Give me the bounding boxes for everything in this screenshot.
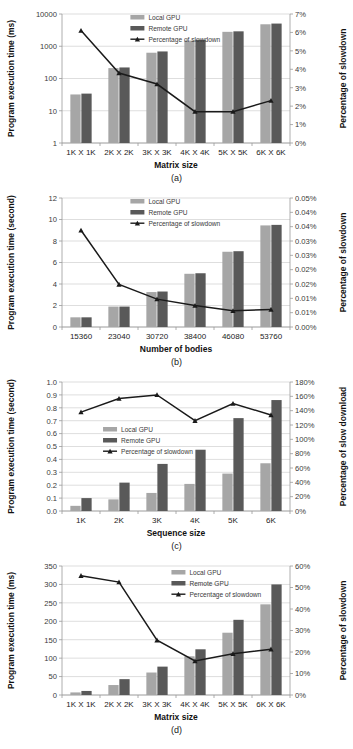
svg-text:0.5: 0.5 [46,442,57,451]
svg-text:0.00%: 0.00% [295,323,317,332]
bar-remote-gpu [271,225,281,327]
svg-text:200: 200 [44,617,57,626]
svg-text:0.03%: 0.03% [295,237,317,246]
legend-remote-gpu-label: Remote GPU [148,209,187,216]
svg-text:50%: 50% [295,583,310,592]
svg-text:3K: 3K [152,516,162,525]
chart-figure-d: 0501001502002503003500%10%20%30%40%50%60… [0,552,353,736]
svg-text:Matrix size: Matrix size [154,712,198,722]
svg-text:Percentage of slowdown: Percentage of slowdown [338,581,348,681]
svg-text:0.04%: 0.04% [295,222,317,231]
svg-text:12: 12 [49,194,57,203]
svg-text:40%: 40% [295,478,310,487]
svg-text:4K X 4K: 4K X 4K [180,700,210,709]
svg-text:100: 100 [44,74,57,83]
bar-local-gpu [146,493,156,511]
svg-text:6: 6 [53,258,57,267]
svg-text:53760: 53760 [260,332,283,341]
svg-text:60%: 60% [295,562,310,571]
svg-text:300: 300 [44,580,57,589]
legend-local-gpu-swatch [130,199,144,204]
svg-text:1K X 1K: 1K X 1K [66,148,96,157]
svg-text:38400: 38400 [184,332,207,341]
svg-text:0.7: 0.7 [46,417,57,426]
svg-text:0.02%: 0.02% [295,280,317,289]
bar-local-gpu [184,274,194,327]
svg-text:Program execution time (ms): Program execution time (ms) [6,20,16,137]
svg-text:250: 250 [44,599,57,608]
svg-text:1K X 1K: 1K X 1K [66,700,96,709]
bar-local-gpu [146,53,156,143]
svg-text:4K X 4K: 4K X 4K [180,148,210,157]
svg-text:46080: 46080 [222,332,245,341]
svg-text:Percentage of slow download: Percentage of slow download [338,387,348,507]
svg-text:0.9: 0.9 [46,391,57,400]
svg-text:5K: 5K [228,516,238,525]
legend-remote-gpu-swatch [171,581,185,586]
legend-remote-gpu-label: Remote GPU [121,437,160,444]
bar-remote-gpu [195,450,205,511]
bar-local-gpu [70,317,80,327]
svg-text:0%: 0% [295,691,306,700]
bar-remote-gpu [233,418,243,511]
svg-text:30720: 30720 [146,332,169,341]
chart-figure-a: 1101001000100000%1%2%3%4%5%6%7%1K X 1K2K… [0,0,353,184]
legend-remote-gpu-swatch [130,210,144,215]
bar-remote-gpu [271,584,281,695]
chart-d-canvas: 0501001502002503003500%10%20%30%40%50%60… [0,552,353,725]
bar-remote-gpu [195,40,205,143]
chart-figure-c: 0.00.10.20.30.40.50.60.70.80.91.00%20%40… [0,368,353,552]
svg-text:1000: 1000 [40,42,57,51]
bar-local-gpu [222,474,232,511]
svg-text:40%: 40% [295,605,310,614]
svg-text:0.4: 0.4 [46,455,57,464]
bar-remote-gpu [119,483,129,511]
svg-text:2%: 2% [295,102,306,111]
svg-text:3K X 3K: 3K X 3K [142,700,172,709]
svg-text:80%: 80% [295,449,310,458]
svg-text:50: 50 [49,672,57,681]
svg-text:100%: 100% [295,435,315,444]
svg-text:350: 350 [44,562,57,571]
svg-text:2: 2 [53,301,57,310]
svg-text:0.2: 0.2 [46,481,57,490]
bar-remote-gpu [119,679,129,695]
bar-remote-gpu [195,273,205,327]
bar-local-gpu [146,673,156,695]
legend-remote-gpu-label: Remote GPU [189,580,228,587]
bar-local-gpu [108,68,118,143]
svg-text:5K X 5K: 5K X 5K [218,700,248,709]
chart-a-canvas: 1101001000100000%1%2%3%4%5%6%7%1K X 1K2K… [0,0,353,173]
svg-text:0.01%: 0.01% [295,294,317,303]
chart-c-canvas: 0.00.10.20.30.40.50.60.70.80.91.00%20%40… [0,368,353,541]
svg-text:0%: 0% [295,139,306,148]
svg-text:150: 150 [44,636,57,645]
svg-text:30%: 30% [295,626,310,635]
bar-local-gpu [108,499,118,511]
chart-b-canvas: 0246810120.00%0.01%0.01%0.02%0.02%0.03%0… [0,184,353,357]
bar-remote-gpu [233,251,243,327]
legend-local-gpu-label: Local GPU [148,198,180,205]
svg-text:2K X 2K: 2K X 2K [104,148,134,157]
svg-text:15360: 15360 [70,332,93,341]
svg-text:160%: 160% [295,392,315,401]
legend-slowdown-label: Percentage of slowdown [121,448,193,456]
svg-text:180%: 180% [295,378,315,387]
svg-text:1%: 1% [295,120,306,129]
svg-text:0.1: 0.1 [46,494,57,503]
svg-text:0.03%: 0.03% [295,251,317,260]
svg-text:6K: 6K [266,516,276,525]
svg-text:0.3: 0.3 [46,468,57,477]
bar-local-gpu [184,484,194,511]
bar-remote-gpu [81,94,91,143]
svg-text:Sequence size: Sequence size [147,528,206,538]
legend-slowdown-label: Percentage of slowdown [148,220,220,228]
chart-b-caption: (b) [0,357,353,368]
svg-text:5%: 5% [295,47,306,56]
svg-text:Program execution time (second: Program execution time (second) [6,195,16,330]
svg-text:6K X 6K: 6K X 6K [256,148,286,157]
bar-local-gpu [222,633,232,695]
svg-text:20%: 20% [295,648,310,657]
svg-text:7%: 7% [295,10,306,19]
bar-remote-gpu [81,317,91,327]
